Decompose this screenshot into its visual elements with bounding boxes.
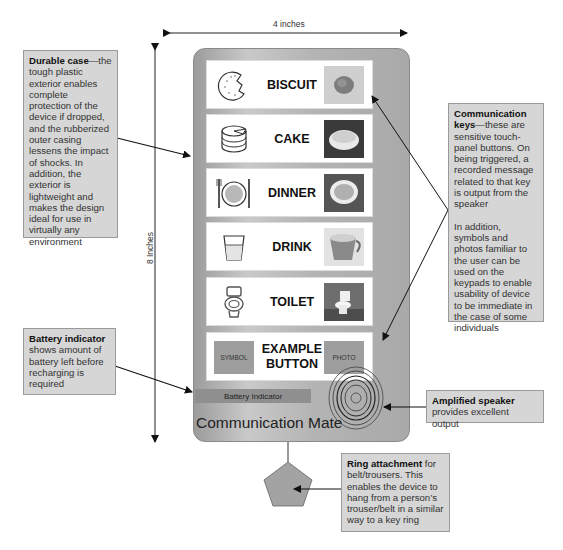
callout-text: shows amount of battery left before rech… [29, 344, 104, 389]
callout-battery-indicator: Battery indicator shows amount of batter… [23, 328, 116, 395]
callout-title: Amplified speaker [432, 395, 515, 406]
callout-text: —these are sensitive touch-panel buttons… [454, 119, 533, 209]
callout-title: Battery indicator [29, 333, 105, 344]
ring-attachment-shape [264, 462, 312, 506]
speaker-icon [329, 367, 383, 429]
callout-text: —the tough plastic exterior enables comp… [29, 55, 112, 247]
callout-text-2: In addition, symbols and photos familiar… [454, 221, 532, 334]
callout-amplified-speaker: Amplified speaker provides excellent out… [426, 390, 544, 423]
callout-title: Durable case [29, 55, 89, 66]
callout-title: Ring attachment [347, 458, 422, 469]
callout-communication-keys: Communication keys—these are sensitive t… [448, 103, 544, 322]
callout-ring-attachment: Ring attachment for belt/trousers. This … [341, 453, 450, 532]
callout-durable-case: Durable case—the tough plastic exterior … [23, 50, 118, 238]
